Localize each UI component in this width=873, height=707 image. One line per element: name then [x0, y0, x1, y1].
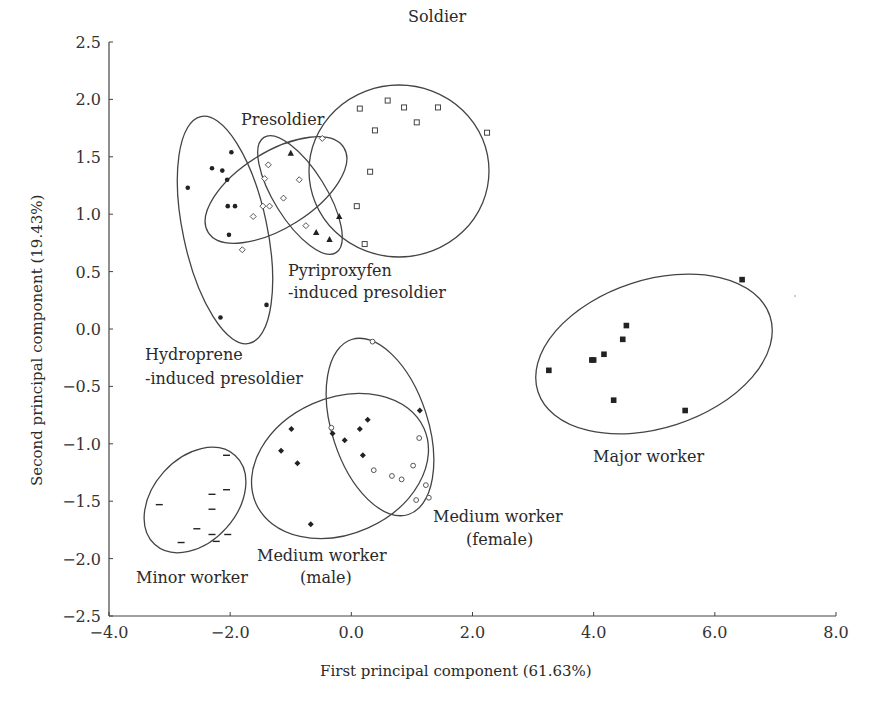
data-point: [288, 426, 294, 432]
label-medium-male-1: Medium worker: [257, 546, 387, 565]
y-tick-label: −2.0: [62, 550, 101, 569]
data-point: [417, 408, 423, 414]
label-pyriproxyfen-1: Pyriproxyfen: [288, 261, 392, 280]
data-point: [278, 448, 284, 454]
y-tick-label: 1.0: [76, 205, 101, 224]
data-point: [354, 204, 359, 209]
data-point: [313, 229, 319, 235]
data-point: [342, 437, 348, 443]
data-point: [362, 242, 367, 247]
x-tick-label: −2.0: [211, 623, 250, 642]
data-point: [280, 195, 286, 201]
label-medium-female-1: Medium worker: [433, 507, 563, 526]
y-tick-label: −1.0: [62, 435, 101, 454]
group-ellipses: [124, 85, 793, 573]
y-axis-label: Second principal component (19.43%): [28, 195, 46, 486]
data-point: [426, 495, 431, 500]
data-point: [357, 426, 363, 432]
minor-worker-ellipse: [124, 427, 267, 572]
x-tick-label: 6.0: [702, 623, 727, 642]
x-tick-label: 2.0: [460, 623, 485, 642]
y-tick-label: 0.0: [76, 320, 101, 339]
data-point: [227, 233, 232, 238]
major-worker-ellipse: [515, 246, 793, 462]
x-tick-label: 4.0: [581, 623, 606, 642]
data-point: [435, 105, 440, 110]
y-tick-label: 2.5: [76, 33, 101, 52]
y-tick-label: −1.5: [62, 492, 101, 511]
data-point: [739, 277, 745, 283]
data-point: [591, 357, 597, 363]
data-point: [485, 130, 490, 135]
pca-scatter-chart: −4.0−2.00.02.04.06.08.02.52.01.51.00.50.…: [0, 0, 873, 707]
data-point: [411, 463, 416, 468]
data-point: [225, 177, 230, 182]
y-tick-label: −2.5: [62, 607, 101, 626]
x-axis-label: First principal component (61.63%): [320, 662, 592, 680]
label-minor-worker: Minor worker: [136, 568, 248, 587]
data-point: [330, 430, 336, 436]
data-point: [303, 223, 309, 229]
presoldier-ellipse: [188, 115, 364, 264]
data-point: [185, 185, 190, 190]
stray-mark: [794, 295, 796, 297]
data-point: [264, 303, 269, 308]
data-point: [414, 498, 419, 503]
medium-male-ellipse: [228, 366, 451, 565]
label-medium-male-2: (male): [300, 568, 352, 587]
y-tick-label: −0.5: [62, 377, 101, 396]
data-point: [390, 474, 395, 479]
data-point: [267, 203, 273, 209]
label-medium-female-2: (female): [466, 530, 533, 549]
data-point: [601, 351, 607, 357]
label-pyriproxyfen-2: -induced presoldier: [288, 283, 446, 302]
label-major-worker: Major worker: [593, 447, 704, 466]
data-point: [220, 168, 225, 173]
data-point: [360, 452, 366, 458]
data-point: [365, 417, 371, 423]
x-tick-label: 0.0: [339, 623, 364, 642]
data-point: [399, 477, 404, 482]
data-point: [620, 337, 626, 343]
data-point: [336, 213, 342, 219]
data-point: [260, 203, 266, 209]
data-point: [294, 460, 300, 466]
data-point: [326, 236, 332, 242]
axes: −4.0−2.00.02.04.06.08.02.52.01.51.00.50.…: [62, 33, 849, 642]
data-point: [357, 106, 362, 111]
label-soldier: Soldier: [408, 7, 467, 26]
data-point: [546, 368, 552, 374]
data-point: [372, 128, 377, 133]
data-point: [611, 397, 617, 403]
data-point: [385, 98, 390, 103]
data-point: [250, 213, 256, 219]
data-point: [329, 425, 334, 430]
data-point: [296, 177, 302, 183]
data-point: [370, 339, 375, 344]
soldier-ellipse: [309, 85, 489, 257]
data-point: [265, 162, 271, 168]
data-point: [210, 166, 215, 171]
data-point: [368, 169, 373, 174]
data-point: [239, 247, 245, 253]
y-tick-label: 2.0: [76, 90, 101, 109]
data-point: [288, 150, 294, 156]
data-point: [624, 323, 630, 329]
data-point: [308, 521, 314, 527]
hydroprene-ellipse: [160, 108, 290, 352]
data-point: [371, 468, 376, 473]
data-point: [225, 204, 230, 209]
data-point: [229, 150, 234, 155]
data-point: [682, 408, 688, 414]
label-hydroprene-1: Hydroprene: [145, 345, 243, 364]
data-point: [414, 120, 419, 125]
data-point: [233, 204, 238, 209]
label-hydroprene-2: -induced presoldier: [145, 369, 303, 388]
x-tick-label: 8.0: [823, 623, 848, 642]
data-point: [423, 483, 428, 488]
medium-female-ellipse: [306, 325, 454, 530]
data-point: [402, 105, 407, 110]
y-tick-label: 1.5: [76, 148, 101, 167]
label-presoldier: Presoldier: [241, 110, 325, 129]
y-tick-label: 0.5: [76, 263, 101, 282]
